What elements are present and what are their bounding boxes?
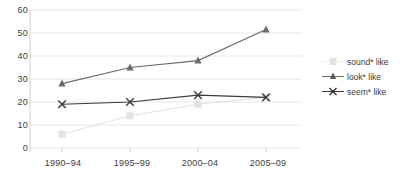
legend-item-look-like[interactable]: look* like xyxy=(322,69,407,84)
legend-label-seem-like: seem* like xyxy=(347,87,386,97)
legend-item-seem-like[interactable]: seem* like xyxy=(322,84,407,99)
legend-marker-square-sound-icon xyxy=(322,55,344,68)
series-line-look-like xyxy=(62,30,266,84)
legend-label-sound-like: sound* like xyxy=(347,57,389,67)
series-look-like-marker-3 xyxy=(262,26,269,33)
series-sound-like-marker-1 xyxy=(127,112,134,119)
legend: sound* like look* like seem* like xyxy=(322,54,407,99)
legend-label-look-like: look* like xyxy=(347,72,381,82)
series-look-like-marker-2 xyxy=(194,57,201,64)
series-sound-like-marker-2 xyxy=(195,101,202,108)
legend-marker-x-seem-icon xyxy=(322,85,344,98)
legend-marker-triangle-look-icon xyxy=(322,70,344,83)
line-chart: 60 50 40 30 20 10 0 1990–94 1995–99 2000… xyxy=(0,0,407,176)
series-line-seem-like xyxy=(62,95,266,104)
series-sound-like-marker-0 xyxy=(59,131,66,138)
legend-item-sound-like[interactable]: sound* like xyxy=(322,54,407,69)
